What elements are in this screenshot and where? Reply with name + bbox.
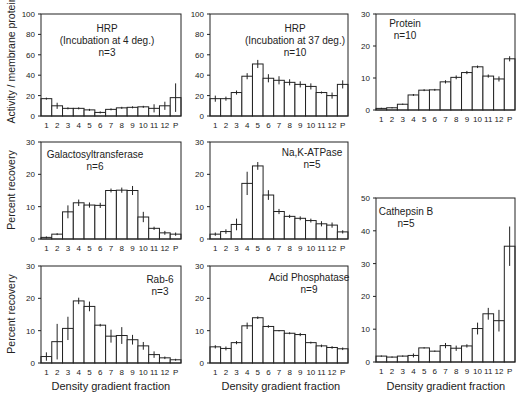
bar — [483, 314, 494, 362]
panel-label: n=3 — [99, 47, 116, 58]
bar — [408, 95, 419, 110]
x-tick-label: 4 — [76, 368, 81, 377]
x-tick-label: 12 — [495, 115, 504, 124]
panel-label: (Incubation at 4 deg.) — [60, 35, 155, 46]
bar — [429, 351, 440, 362]
x-tick-label: 3 — [66, 368, 71, 377]
bar — [41, 99, 52, 116]
panel-label: Acid Phosphatase — [269, 272, 350, 283]
x-tick-label: 7 — [109, 121, 114, 130]
x-tick-label: 12 — [160, 368, 169, 377]
chart-panel: 0102030123456789101112PNa,K-ATPasen=5 — [195, 138, 348, 253]
x-tick-label: 7 — [277, 121, 282, 130]
y-tick-label: 0 — [31, 112, 36, 121]
x-tick-label: 10 — [306, 244, 315, 253]
x-tick-label: 10 — [473, 367, 482, 376]
chart-panel: 0102030123456789101112PRab-6n=3 — [26, 262, 181, 377]
x-tick-label: P — [340, 121, 345, 130]
y-tick-label: 80 — [195, 30, 204, 39]
y-tick-label: 20 — [195, 170, 204, 179]
bar — [419, 90, 430, 110]
x-tick-label: 2 — [224, 121, 229, 130]
bar — [451, 77, 462, 110]
bar — [73, 203, 84, 239]
bar — [274, 331, 285, 363]
y-tick-label: 10 — [195, 327, 204, 336]
x-tick-label: 6 — [98, 244, 103, 253]
x-tick-label: 1 — [44, 121, 49, 130]
bar — [242, 326, 253, 363]
x-tick-label: 8 — [287, 368, 292, 377]
bar — [306, 343, 317, 363]
bar — [242, 76, 253, 116]
y-tick-label: 30 — [361, 10, 370, 19]
x-tick-label: 5 — [87, 368, 92, 377]
y-tick-label: 20 — [195, 294, 204, 303]
bar — [210, 347, 221, 363]
x-tick-label: 11 — [150, 121, 159, 130]
x-tick-label: 3 — [401, 115, 406, 124]
y-tick-label: 60 — [26, 51, 35, 60]
y-tick-label: 10 — [26, 327, 35, 336]
x-tick-label: 6 — [433, 367, 438, 376]
panel-label: HRP — [96, 23, 117, 34]
bar — [84, 205, 95, 239]
y-tick-label: 10 — [195, 203, 204, 212]
panel-label: Galactosyltransferase — [47, 149, 144, 160]
panel-label: n=9 — [301, 284, 318, 295]
y-axis-label: Activity / membrane protein — [4, 0, 16, 124]
bar — [429, 90, 440, 110]
x-tick-label: 6 — [266, 368, 271, 377]
bar — [387, 357, 398, 362]
bar — [327, 347, 338, 363]
bar — [504, 59, 515, 110]
y-tick-label: 0 — [200, 359, 205, 368]
panel-label: n=5 — [398, 218, 415, 229]
panel-label: Rab-6 — [146, 274, 174, 285]
panel-label: HRP — [284, 23, 305, 34]
x-tick-label: 8 — [287, 244, 292, 253]
x-tick-label: 10 — [306, 121, 315, 130]
x-tick-label: 4 — [76, 244, 81, 253]
bar — [295, 335, 306, 363]
bar — [295, 84, 306, 116]
x-tick-label: 11 — [150, 244, 159, 253]
x-tick-label: 8 — [120, 121, 125, 130]
bar — [494, 79, 505, 110]
bar — [95, 325, 106, 363]
y-axis-label: Percent recovery — [4, 150, 16, 229]
x-tick-label: 9 — [130, 368, 135, 377]
bar — [274, 80, 285, 116]
chart-panel: 0102030123456789101112PProteinn=10 — [361, 10, 515, 124]
x-tick-label: 5 — [256, 368, 261, 377]
x-axis-label: Density gradient fraction — [387, 380, 506, 392]
bar — [295, 218, 306, 239]
x-tick-label: 7 — [277, 368, 282, 377]
y-tick-label: 30 — [195, 262, 204, 271]
bar — [138, 107, 149, 116]
y-tick-label: 0 — [200, 235, 205, 244]
y-tick-label: 10 — [361, 74, 370, 83]
x-tick-label: 1 — [213, 121, 218, 130]
x-tick-label: 1 — [379, 367, 384, 376]
x-tick-label: 6 — [433, 115, 438, 124]
panel-label: n=10 — [394, 30, 417, 41]
x-tick-label: 5 — [256, 121, 261, 130]
bar — [316, 93, 327, 116]
bar — [462, 73, 473, 110]
x-tick-label: 2 — [390, 367, 395, 376]
y-tick-label: 20 — [361, 42, 370, 51]
x-tick-label: 9 — [130, 244, 135, 253]
y-tick-label: 100 — [22, 10, 36, 19]
x-tick-label: 7 — [443, 115, 448, 124]
bar — [252, 166, 263, 239]
x-axis-label: Density gradient fraction — [222, 380, 341, 392]
bar — [84, 306, 95, 363]
x-tick-label: 1 — [44, 244, 49, 253]
x-tick-label: 10 — [473, 115, 482, 124]
x-tick-label: 5 — [87, 121, 92, 130]
x-tick-label: P — [173, 368, 178, 377]
x-tick-label: 2 — [224, 368, 229, 377]
bar — [284, 82, 295, 116]
y-tick-label: 0 — [366, 358, 371, 367]
